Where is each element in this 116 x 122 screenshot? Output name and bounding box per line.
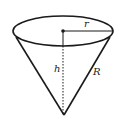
slant-height-label: R [93, 67, 101, 77]
cone-figure [0, 0, 116, 122]
radius-label: r [84, 19, 89, 29]
cone-left-side [16, 37, 64, 115]
height-label: h [54, 64, 60, 74]
center-point [61, 29, 65, 33]
cone-right-side [64, 37, 110, 115]
cone-diagram: r h R [0, 0, 116, 122]
